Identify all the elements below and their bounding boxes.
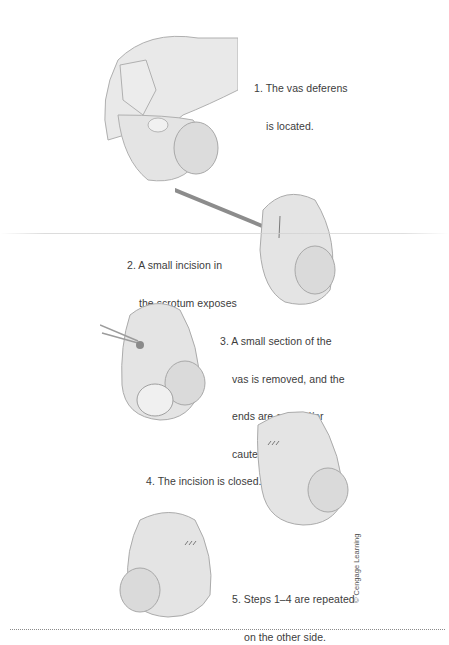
step-3-line-1: A small section of the (231, 335, 331, 347)
step-1-number: 1. (254, 82, 263, 95)
step-2-line-1: A small incision in (138, 259, 222, 271)
incision-closed-illustration (248, 405, 358, 530)
step-1-line-1: The vas deferens (266, 82, 348, 94)
vas-section-removed-illustration (100, 295, 215, 425)
step-5-number: 5. (232, 593, 241, 606)
copyright-credit: © Cengage Learning (352, 534, 361, 603)
dotted-rule (10, 629, 445, 630)
step-4-line-1: The incision is closed. (158, 475, 262, 487)
step-1-caption: 1. The vas deferens is located. (254, 57, 348, 157)
other-side-illustration (110, 505, 225, 620)
step-1-line-2: is located. (266, 120, 314, 132)
step-3-line-2: vas is removed, and the (232, 373, 345, 385)
step-5-caption: 5. Steps 1–4 are repeated on the other s… (232, 568, 355, 645)
step-4-caption: 4. The incision is closed. (146, 450, 262, 513)
step-4-number: 4. (146, 475, 155, 488)
hand-locating-vas-illustration (88, 20, 238, 185)
step-5-line-1: Steps 1–4 are repeated (244, 593, 355, 605)
step-5-line-2: on the other side. (244, 631, 326, 643)
step-3-number: 3. (220, 335, 229, 348)
step-2-number: 2. (127, 259, 136, 272)
